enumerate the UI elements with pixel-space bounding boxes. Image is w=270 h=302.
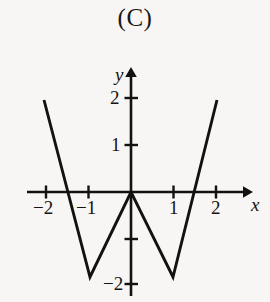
x-axis-label: x	[251, 195, 259, 214]
plot-graphics	[0, 0, 270, 302]
y-tick-label-pos2: 2	[110, 88, 120, 107]
x-tick-label-pos2: 2	[211, 198, 221, 217]
y-tick-label-pos1: 1	[111, 135, 121, 154]
figure-panel: (C) −2 −1 1 2 2 1	[0, 0, 270, 302]
y-tick-label-neg2: −2	[103, 274, 123, 293]
x-tick-label-pos1: 1	[169, 198, 179, 217]
plot-area: −2 −1 1 2 2 1 −2 x y	[0, 0, 270, 302]
y-axis-label: y	[115, 65, 123, 84]
x-tick-label-neg2: −2	[33, 198, 53, 217]
x-tick-label-neg1: −1	[76, 198, 96, 217]
y-axis-arrowhead	[125, 67, 137, 77]
